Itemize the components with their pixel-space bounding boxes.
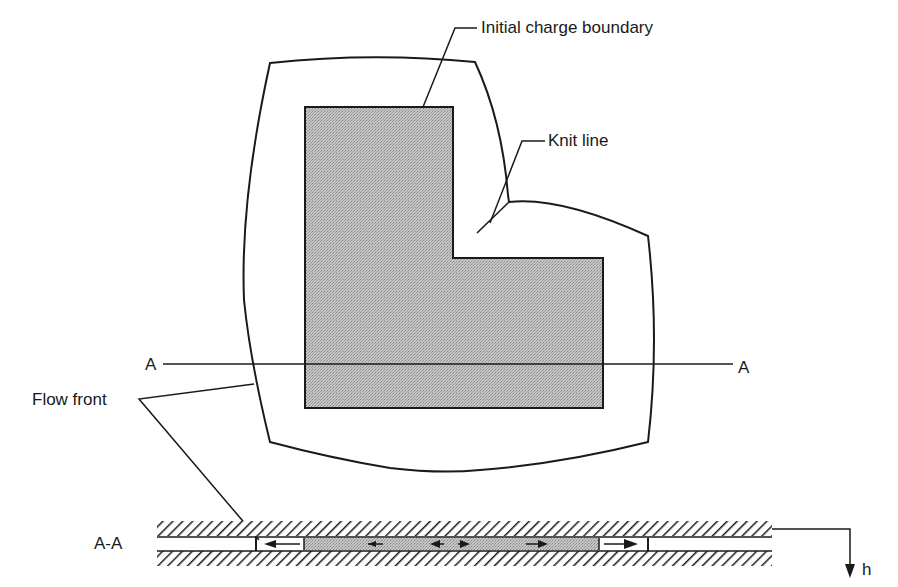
label-section-a-right: A: [738, 359, 749, 376]
leader-initial-charge: [423, 28, 477, 107]
flow-arrow-right: [604, 539, 638, 549]
upper-mold-hatch: [157, 521, 772, 536]
leader-flow-front: [139, 384, 259, 540]
leader-knit-line: [490, 141, 545, 223]
diagram-canvas: [0, 0, 898, 587]
cross-section-a-a: [157, 521, 855, 578]
label-thickness: h: [862, 561, 871, 578]
knit-line: [477, 202, 509, 233]
label-initial-charge-boundary: Initial charge boundary: [481, 19, 653, 36]
thickness-indicator: [772, 529, 855, 578]
label-section-a-left: A: [145, 356, 156, 373]
label-section-view: A-A: [94, 535, 122, 552]
flow-arrow-left: [264, 540, 300, 548]
initial-charge-region: [305, 107, 603, 408]
lower-mold-hatch: [157, 551, 772, 566]
label-knit-line: Knit line: [548, 132, 608, 149]
label-flow-front: Flow front: [32, 391, 107, 408]
section-charge: [304, 538, 599, 550]
